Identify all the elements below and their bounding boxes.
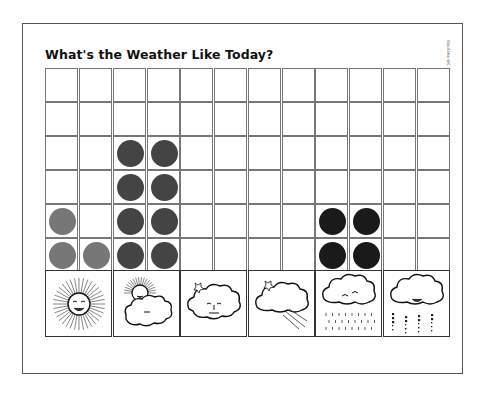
grid-cell	[214, 204, 247, 238]
grid-cell	[248, 68, 281, 102]
tally-dot	[353, 208, 380, 235]
grid-cell	[349, 136, 382, 170]
column-partly-cloudy	[113, 68, 180, 337]
grid-cell	[45, 68, 78, 102]
grid-cell	[315, 102, 348, 136]
sun-icon	[45, 270, 112, 337]
column-snowy	[383, 68, 450, 337]
grid-cell	[417, 68, 450, 102]
grid-cell	[349, 102, 382, 136]
grid-cell	[147, 68, 180, 102]
grid-cell	[79, 102, 112, 136]
grid-cell	[113, 136, 146, 170]
tally-dot	[151, 242, 178, 269]
grid-cell	[383, 68, 416, 102]
grid-cell	[315, 170, 348, 204]
tally-dot	[117, 140, 144, 167]
tally-dot	[49, 208, 76, 235]
grid-cell	[248, 238, 281, 272]
grid-cell	[349, 68, 382, 102]
grid-cell	[315, 204, 348, 238]
grid-cell	[180, 136, 213, 170]
sun-behind-cloud-icon	[113, 270, 180, 337]
grid-cell	[79, 136, 112, 170]
page-title: What's the Weather Like Today?	[45, 47, 273, 62]
grid-cell	[147, 204, 180, 238]
grid-cell	[282, 170, 315, 204]
grid-cell	[147, 170, 180, 204]
grid-cell	[79, 170, 112, 204]
grid-cell	[315, 238, 348, 272]
grid-cell	[45, 170, 78, 204]
grid-cell	[417, 170, 450, 204]
snow-cloud-icon	[383, 270, 450, 337]
grid-cell	[180, 238, 213, 272]
grid-cell	[383, 238, 416, 272]
grid-cell	[417, 204, 450, 238]
grid-cell	[79, 204, 112, 238]
grid-cell	[113, 102, 146, 136]
grid-cell	[349, 238, 382, 272]
grid-cell	[180, 204, 213, 238]
tally-dot	[151, 140, 178, 167]
tally-dot	[319, 242, 346, 269]
grid-cell	[383, 136, 416, 170]
tally-dot	[151, 208, 178, 235]
grid-cell	[248, 170, 281, 204]
grid-cell	[383, 204, 416, 238]
wind-cloud-icon	[248, 270, 315, 337]
grid-cell	[180, 68, 213, 102]
column-cloudy	[180, 68, 247, 337]
grid-cell	[113, 170, 146, 204]
cloud-icon	[180, 270, 247, 337]
grid-cell	[417, 102, 450, 136]
grid-cell	[383, 102, 416, 136]
tally-dot	[49, 242, 76, 269]
grid-cell	[315, 136, 348, 170]
grid-cell	[417, 238, 450, 272]
column-rainy	[315, 68, 382, 337]
grid-cell	[248, 136, 281, 170]
grid-cell	[383, 170, 416, 204]
tally-dot	[353, 242, 380, 269]
grid-cell	[214, 68, 247, 102]
grid-cell	[147, 238, 180, 272]
grid-cell	[79, 68, 112, 102]
grid-cell	[214, 170, 247, 204]
grid-cell	[417, 136, 450, 170]
grid-cell	[214, 102, 247, 136]
tally-dot	[151, 174, 178, 201]
side-label: Blackline WC 4	[446, 40, 451, 70]
grid-cell	[214, 238, 247, 272]
grid-cell	[282, 68, 315, 102]
grid-cell	[349, 170, 382, 204]
grid-cell	[113, 68, 146, 102]
grid-cell	[147, 102, 180, 136]
grid-cell	[282, 238, 315, 272]
grid-cell	[79, 238, 112, 272]
tally-dot	[319, 208, 346, 235]
grid-cell	[248, 204, 281, 238]
grid-cell	[45, 204, 78, 238]
grid-cell	[45, 136, 78, 170]
grid-cell	[214, 136, 247, 170]
column-windy	[248, 68, 315, 337]
grid-cell	[315, 68, 348, 102]
grid-cell	[180, 170, 213, 204]
grid-cell	[180, 102, 213, 136]
grid-cell	[282, 204, 315, 238]
grid-cell	[45, 102, 78, 136]
grid-cell	[282, 136, 315, 170]
grid-cell	[282, 102, 315, 136]
grid-cell	[147, 136, 180, 170]
grid-cell	[349, 204, 382, 238]
tally-dot	[117, 242, 144, 269]
tally-dot	[117, 208, 144, 235]
rain-cloud-icon	[315, 270, 382, 337]
grid-cell	[113, 204, 146, 238]
tally-dot	[117, 174, 144, 201]
grid-cell	[113, 238, 146, 272]
tally-dot	[83, 242, 110, 269]
grid-cell	[248, 102, 281, 136]
grid-cell	[45, 238, 78, 272]
